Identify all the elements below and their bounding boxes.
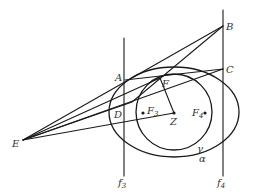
- label-F4: F4: [191, 107, 203, 120]
- point-Z: [172, 111, 175, 114]
- label-E: E: [11, 138, 20, 149]
- line-E-A-B: [23, 26, 223, 140]
- label-D: D: [113, 109, 122, 120]
- label-A: A: [114, 72, 122, 83]
- label-B: B: [225, 21, 233, 32]
- point-F4: [203, 111, 206, 114]
- label-f3: f3: [117, 177, 127, 190]
- label-F3: F3: [146, 105, 159, 118]
- line-E-F: [23, 78, 160, 140]
- label-f4: f4: [216, 177, 225, 190]
- label-alpha: α: [199, 153, 206, 164]
- label-Z: Z: [169, 116, 178, 127]
- diagram-canvas: A B C D E F Z F3 F4 γ α f3 f4: [0, 0, 255, 196]
- label-C: C: [226, 64, 234, 75]
- geometry-figure: A B C D E F Z F3 F4 γ α f3 f4: [0, 0, 255, 196]
- label-F: F: [161, 78, 170, 89]
- point-F3: [141, 111, 144, 114]
